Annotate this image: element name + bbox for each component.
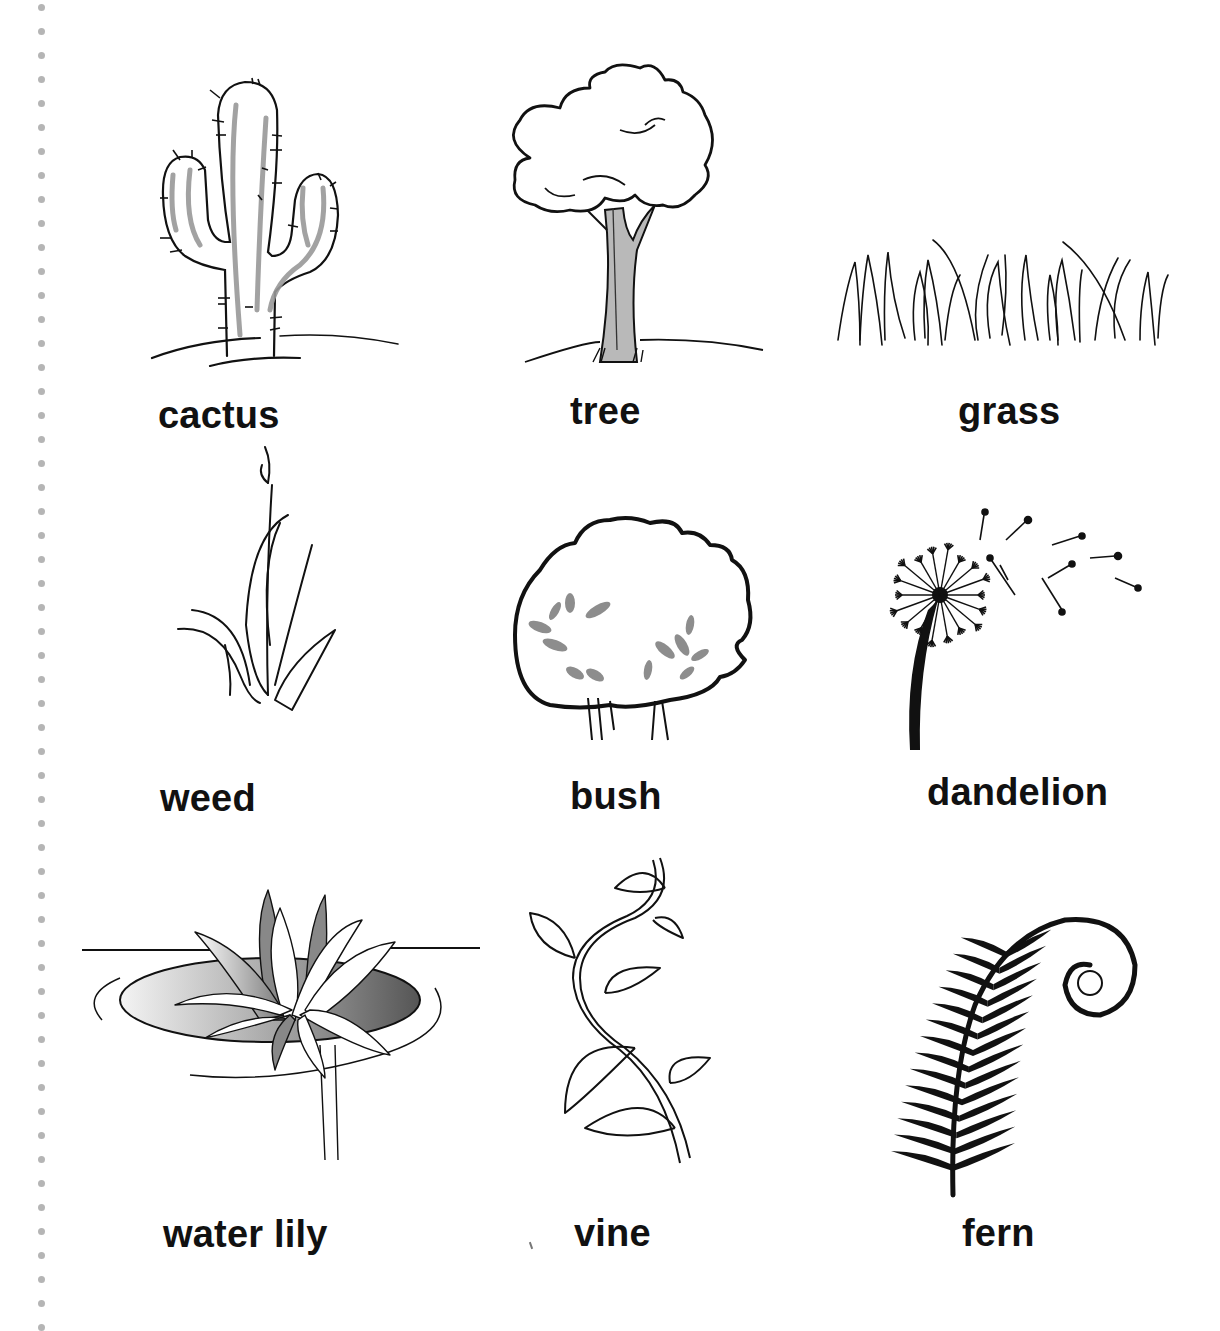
binder-dot: [38, 52, 45, 59]
plant-label-vine: vine: [574, 1212, 651, 1255]
binder-dot: [38, 868, 45, 875]
cactus-icon: [140, 70, 410, 370]
binder-dot: [38, 796, 45, 803]
binder-dot: [38, 1324, 45, 1331]
binder-dot: [38, 100, 45, 107]
binder-dot: [38, 532, 45, 539]
binder-dot: [38, 1180, 45, 1187]
binder-dot: [38, 244, 45, 251]
binder-dot: [38, 700, 45, 707]
binder-dot: [38, 964, 45, 971]
binder-dot: [38, 4, 45, 11]
binder-dot: [38, 988, 45, 995]
water-lily-icon: [80, 870, 490, 1160]
binder-dot: [38, 940, 45, 947]
binder-dot: [38, 628, 45, 635]
binder-dot: [38, 412, 45, 419]
tree-icon: [505, 80, 765, 370]
plant-label-tree: tree: [570, 390, 641, 433]
dandelion-icon: [880, 500, 1150, 760]
binder-dot: [38, 484, 45, 491]
binder-dot: [38, 388, 45, 395]
plant-label-water-lily: water lily: [163, 1213, 328, 1256]
binder-dot: [38, 220, 45, 227]
binder-dot: [38, 1060, 45, 1067]
stray-mark: [529, 1242, 533, 1249]
binder-dot: [38, 556, 45, 563]
binder-dot: [38, 196, 45, 203]
binder-dot: [38, 316, 45, 323]
binder-dot: [38, 1252, 45, 1259]
binder-dot: [38, 580, 45, 587]
binder-dots-margin: [36, 0, 48, 1329]
binder-dot: [38, 76, 45, 83]
plant-label-weed: weed: [160, 777, 256, 820]
binder-dot: [38, 436, 45, 443]
binder-dot: [38, 652, 45, 659]
binder-dot: [38, 340, 45, 347]
binder-dot: [38, 748, 45, 755]
binder-dot: [38, 604, 45, 611]
binder-dot: [38, 508, 45, 515]
binder-dot: [38, 28, 45, 35]
plant-label-bush: bush: [570, 775, 662, 818]
binder-dot: [38, 1012, 45, 1019]
binder-dot: [38, 1108, 45, 1115]
binder-dot: [38, 1156, 45, 1163]
plant-label-fern: fern: [962, 1212, 1035, 1255]
plant-label-cactus: cactus: [158, 394, 280, 437]
binder-dot: [38, 1300, 45, 1307]
vine-icon: [525, 858, 715, 1168]
binder-dot: [38, 1276, 45, 1283]
plant-label-grass: grass: [958, 390, 1060, 433]
binder-dot: [38, 172, 45, 179]
binder-dot: [38, 1132, 45, 1139]
binder-dot: [38, 916, 45, 923]
fern-icon: [895, 875, 1155, 1195]
weed-icon: [180, 445, 350, 725]
binder-dot: [38, 844, 45, 851]
binder-dot: [38, 1228, 45, 1235]
binder-dot: [38, 724, 45, 731]
binder-dot: [38, 148, 45, 155]
binder-dot: [38, 292, 45, 299]
binder-dot: [38, 1084, 45, 1091]
binder-dot: [38, 676, 45, 683]
plant-label-dandelion: dandelion: [927, 771, 1108, 814]
binder-dot: [38, 1204, 45, 1211]
grass-icon: [830, 230, 1170, 350]
binder-dot: [38, 772, 45, 779]
binder-dot: [38, 820, 45, 827]
binder-dot: [38, 124, 45, 131]
binder-dot: [38, 364, 45, 371]
binder-dot: [38, 892, 45, 899]
binder-dot: [38, 268, 45, 275]
binder-dot: [38, 460, 45, 467]
binder-dot: [38, 1036, 45, 1043]
bush-icon: [510, 515, 760, 745]
